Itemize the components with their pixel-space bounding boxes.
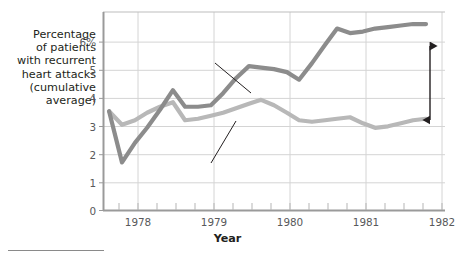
y-axis-ticks <box>99 42 103 210</box>
chart-plot-svg <box>0 0 455 258</box>
footer-rule <box>8 250 104 251</box>
chart-container: Percentage of patients with recurrent he… <box>0 0 455 258</box>
